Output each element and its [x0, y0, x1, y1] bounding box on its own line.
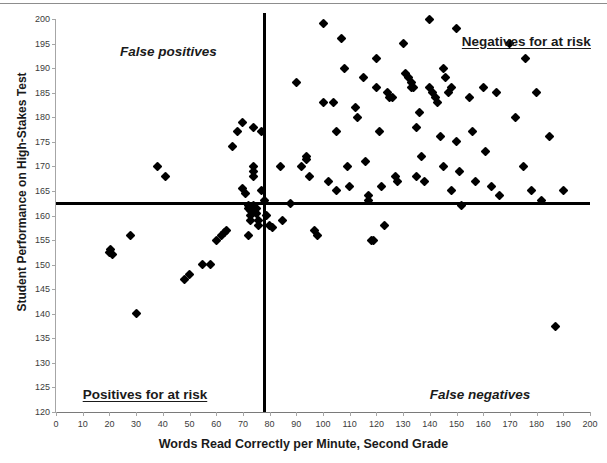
x-axis-tick-label: 90: [291, 419, 301, 429]
x-axis-tick: [163, 412, 164, 416]
y-axis-tick-label: 130: [35, 358, 50, 368]
data-point: [243, 230, 253, 240]
x-axis-tick: [109, 412, 110, 416]
x-axis-tick-label: 30: [131, 419, 141, 429]
x-axis-tick: [563, 412, 564, 416]
y-axis-tick: [52, 265, 56, 266]
x-axis-tick: [350, 412, 351, 416]
y-axis-tick: [52, 191, 56, 192]
x-axis-tick: [83, 412, 84, 416]
x-axis-tick: [403, 412, 404, 416]
data-point: [371, 83, 381, 93]
data-point: [414, 107, 424, 117]
quadrant-label-upper-right: Negatives for at risk: [462, 34, 591, 49]
x-axis-tick-label: 10: [78, 419, 88, 429]
data-point: [331, 186, 341, 196]
y-axis-tick-label: 135: [35, 333, 50, 343]
data-point: [161, 171, 171, 181]
data-point: [521, 53, 531, 63]
y-axis-tick: [52, 68, 56, 69]
plot-area: 1201251301351401451501551601651701751801…: [55, 19, 590, 413]
y-axis-tick: [52, 387, 56, 388]
data-point: [329, 98, 339, 108]
y-axis-tick: [52, 240, 56, 241]
data-point: [532, 88, 542, 98]
y-axis-tick: [52, 314, 56, 315]
data-point: [558, 186, 568, 196]
x-axis-tick: [270, 412, 271, 416]
data-point: [446, 186, 456, 196]
data-point: [454, 166, 464, 176]
data-point: [345, 181, 355, 191]
data-point: [233, 127, 243, 137]
x-axis-tick-label: 140: [422, 419, 437, 429]
x-axis-tick-label: 130: [396, 419, 411, 429]
x-axis-tick: [190, 412, 191, 416]
data-point: [398, 39, 408, 49]
y-axis-tick-label: 165: [35, 186, 50, 196]
y-axis-tick-label: 160: [35, 211, 50, 221]
x-axis-tick-label: 80: [265, 419, 275, 429]
x-axis-tick: [483, 412, 484, 416]
y-axis-tick: [52, 289, 56, 290]
data-point: [358, 73, 368, 83]
y-axis-tick: [52, 363, 56, 364]
data-point: [417, 152, 427, 162]
data-point: [492, 88, 502, 98]
y-axis-tick-label: 125: [35, 382, 50, 392]
y-axis-tick: [52, 44, 56, 45]
y-axis-tick: [52, 117, 56, 118]
x-axis-tick-label: 200: [582, 419, 597, 429]
scatter-plot-figure: 1201251301351401451501551601651701751801…: [0, 0, 607, 463]
x-axis-tick-label: 100: [315, 419, 330, 429]
y-axis-tick-label: 140: [35, 309, 50, 319]
y-axis-tick: [52, 142, 56, 143]
data-point: [468, 127, 478, 137]
x-axis-tick: [510, 412, 511, 416]
y-axis-tick: [52, 93, 56, 94]
data-point: [238, 117, 248, 127]
data-point: [371, 53, 381, 63]
data-point: [374, 127, 384, 137]
y-axis-tick-label: 170: [35, 161, 50, 171]
y-axis-tick-label: 195: [35, 39, 50, 49]
data-point: [481, 147, 491, 157]
y-axis-tick: [52, 19, 56, 20]
data-point: [438, 161, 448, 171]
x-axis-tick-label: 70: [238, 419, 248, 429]
data-point: [267, 223, 277, 233]
x-axis-tick: [590, 412, 591, 416]
y-axis-tick-label: 200: [35, 14, 50, 24]
y-axis-tick-label: 190: [35, 63, 50, 73]
quadrant-label-lower-left: Positives for at risk: [83, 387, 208, 402]
x-axis-tick-label: 60: [211, 419, 221, 429]
data-point: [305, 171, 315, 181]
data-point: [331, 127, 341, 137]
y-axis-tick-label: 155: [35, 235, 50, 245]
x-axis-tick: [457, 412, 458, 416]
data-point: [478, 83, 488, 93]
x-axis-tick-label: 170: [502, 419, 517, 429]
data-point: [286, 198, 296, 208]
data-point: [441, 73, 451, 83]
data-point: [318, 19, 328, 29]
y-axis-tick: [52, 216, 56, 217]
x-axis-tick: [136, 412, 137, 416]
data-point: [545, 132, 555, 142]
data-point: [425, 14, 435, 24]
quadrant-label-upper-left: False positives: [120, 44, 217, 59]
x-axis-tick-label: 180: [529, 419, 544, 429]
x-axis-tick-label: 150: [449, 419, 464, 429]
x-axis-tick: [296, 412, 297, 416]
data-point: [206, 260, 216, 270]
data-point: [379, 220, 389, 230]
x-axis-tick-label: 160: [476, 419, 491, 429]
x-axis-tick-label: 50: [184, 419, 194, 429]
data-point: [278, 215, 288, 225]
data-point: [361, 157, 371, 167]
x-axis-tick-label: 20: [104, 419, 114, 429]
y-axis-tick-label: 120: [35, 407, 50, 417]
data-point: [318, 98, 328, 108]
data-point: [342, 161, 352, 171]
y-axis-tick-label: 150: [35, 260, 50, 270]
